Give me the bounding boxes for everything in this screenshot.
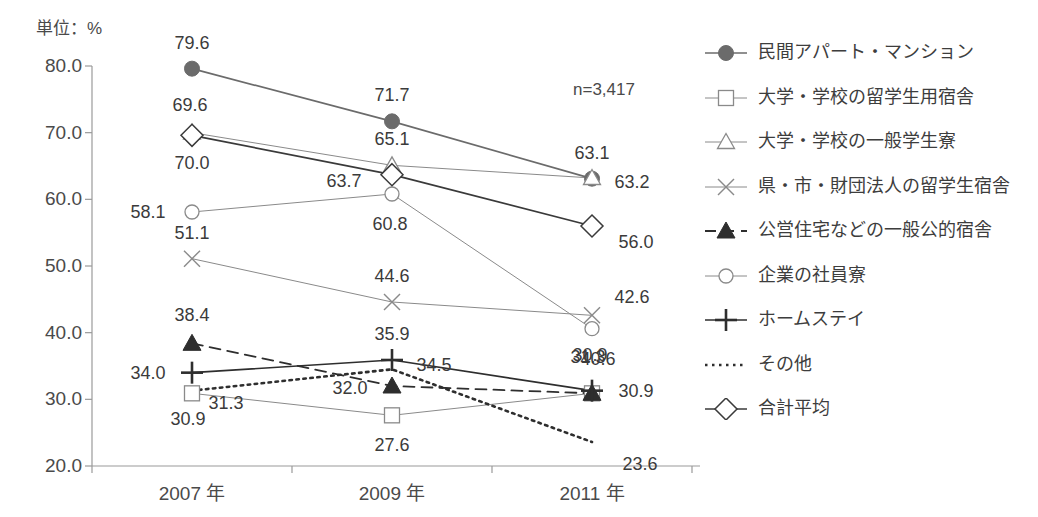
data-point-label: 34.5 [416, 355, 451, 376]
data-point-label: 70.0 [174, 152, 209, 173]
legend-marker-open-square-icon [703, 87, 749, 107]
data-point-label: 35.9 [374, 324, 409, 345]
legend-marker-open-triangle-icon [703, 131, 749, 151]
legend-label: 民間アパート・マンション [758, 43, 974, 61]
series-marker [385, 114, 400, 129]
series-marker [719, 46, 734, 61]
series-marker [718, 134, 735, 149]
legend-label: 公営住宅などの一般公的宿舎 [758, 221, 992, 239]
legend-item[interactable]: その他 [703, 342, 1038, 387]
legend-marker-open-circle-icon [703, 265, 749, 285]
legend-label: 県・市・財団法人の留学生宿舎 [758, 177, 1010, 195]
series-marker [183, 334, 201, 350]
data-point-label: 63.1 [574, 142, 609, 163]
data-point-label: 51.1 [174, 222, 209, 243]
data-point-label: 63.7 [326, 170, 361, 191]
data-point-label: 71.7 [374, 85, 409, 106]
series-marker [719, 90, 734, 105]
series-marker [181, 362, 203, 384]
series-marker [717, 222, 735, 238]
legend-marker-open-diamond-icon [703, 398, 749, 418]
series-marker [585, 322, 599, 336]
legend-marker-plus-icon [703, 309, 749, 329]
data-point-label: 38.4 [174, 305, 209, 326]
legend-label: その他 [758, 355, 812, 373]
series-marker [715, 309, 737, 331]
legend-item[interactable]: 大学・学校の留学生用宿舎 [703, 75, 1038, 120]
data-point-label: 23.6 [622, 454, 657, 475]
legend-label: ホームステイ [758, 310, 865, 328]
legend-item[interactable]: 企業の社員寮 [703, 253, 1038, 298]
legend-item[interactable]: ホームステイ [703, 297, 1038, 342]
data-point-label: 56.0 [618, 232, 653, 253]
series-marker [719, 269, 733, 283]
legend-item[interactable]: 合計平均 [703, 386, 1038, 431]
legend-label: 企業の社員寮 [758, 266, 866, 284]
data-point-label: 69.6 [172, 95, 207, 116]
legend-label: 合計平均 [758, 399, 830, 417]
data-point-label: 58.1 [130, 202, 165, 223]
data-point-label: 42.6 [614, 287, 649, 308]
series-marker [185, 386, 200, 401]
series-marker [381, 164, 403, 186]
series-marker [385, 187, 399, 201]
legend-marker-cross-x-icon [703, 176, 749, 196]
data-point-label: 79.6 [174, 32, 209, 53]
data-point-label: 63.2 [614, 172, 649, 193]
legend-item[interactable]: 公営住宅などの一般公的宿舎 [703, 208, 1038, 253]
series-marker [185, 205, 199, 219]
legend-label: 大学・学校の一般学生寮 [758, 132, 956, 150]
legend-item[interactable]: 民間アパート・マンション [703, 30, 1038, 75]
data-point-label: 44.6 [374, 266, 409, 287]
data-point-label: 30.9 [170, 409, 205, 430]
chart-root: 単位：% 80.070.060.050.040.030.020.0 2007 年… [0, 0, 1038, 517]
series-marker [581, 215, 603, 237]
data-point-label: 27.6 [374, 435, 409, 456]
legend-label: 大学・学校の留学生用宿舎 [758, 88, 974, 106]
series-marker [181, 124, 203, 146]
chart-legend: 民間アパート・マンション大学・学校の留学生用宿舎大学・学校の一般学生寮県・市・財… [703, 30, 1038, 431]
data-point-label: 30.9 [618, 381, 653, 402]
series-marker [184, 251, 200, 267]
data-point-label: 32.0 [332, 378, 367, 399]
series-marker [385, 408, 400, 423]
data-point-label: 34.0 [130, 362, 165, 383]
series-marker [381, 349, 403, 371]
legend-marker-none-icon [703, 354, 749, 374]
series-marker [715, 398, 737, 420]
legend-item[interactable]: 大学・学校の一般学生寮 [703, 119, 1038, 164]
data-point-label: 65.1 [374, 129, 409, 150]
legend-marker-filled-circle-icon [703, 42, 749, 62]
series-marker [185, 61, 200, 76]
data-point-label: 31.3 [570, 346, 605, 367]
data-point-label: 31.3 [208, 392, 243, 413]
data-point-label: 60.8 [372, 214, 407, 235]
legend-item[interactable]: 県・市・財団法人の留学生宿舎 [703, 164, 1038, 209]
legend-marker-filled-triangle-icon [703, 220, 749, 240]
